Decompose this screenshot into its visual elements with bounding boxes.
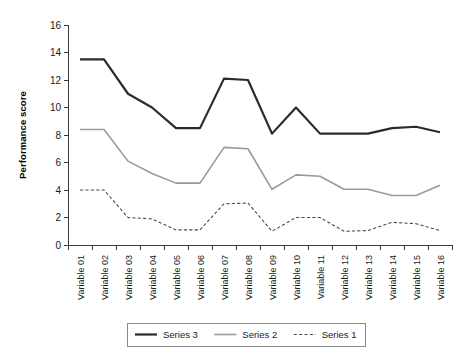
x-tick-label: Variable 03	[124, 255, 134, 300]
x-tick-label: Variable 06	[196, 255, 206, 300]
x-tick-label: Variable 15	[412, 255, 422, 300]
y-tick-label: 6	[55, 157, 61, 168]
x-tick-label: Variable 16	[436, 255, 446, 300]
line-chart: 0246810121416Performance scoreVariable 0…	[0, 0, 471, 358]
x-tick-label: Variable 04	[148, 255, 158, 300]
series-line-2	[80, 130, 440, 196]
y-tick-label: 10	[50, 102, 62, 113]
x-tick-label: Variable 08	[244, 255, 254, 300]
x-tick-label: Variable 11	[316, 255, 326, 299]
y-tick-label: 16	[50, 20, 62, 31]
y-tick-label: 2	[55, 212, 61, 223]
y-tick-label: 8	[55, 130, 61, 141]
x-tick-label: Variable 10	[292, 255, 302, 300]
legend-label: Series 3	[163, 329, 198, 340]
series-line-3	[80, 190, 440, 231]
y-tick-label: 12	[50, 75, 62, 86]
x-tick-label: Variable 12	[340, 255, 350, 300]
y-tick-label: 4	[55, 185, 61, 196]
legend-label: Series 2	[242, 329, 277, 340]
chart-canvas: 0246810121416Performance scoreVariable 0…	[0, 0, 471, 358]
y-axis-title: Performance score	[17, 91, 28, 179]
x-tick-label: Variable 01	[76, 255, 86, 300]
x-tick-label: Variable 02	[100, 255, 110, 300]
legend-label: Series 1	[322, 329, 357, 340]
series-line-1	[80, 59, 440, 133]
x-tick-label: Variable 14	[388, 255, 398, 300]
y-tick-label: 14	[50, 47, 62, 58]
x-tick-label: Variable 07	[220, 255, 230, 300]
x-tick-label: Variable 13	[364, 255, 374, 300]
x-tick-label: Variable 09	[268, 255, 278, 300]
y-tick-label: 0	[55, 240, 61, 251]
x-tick-label: Variable 05	[172, 255, 182, 300]
